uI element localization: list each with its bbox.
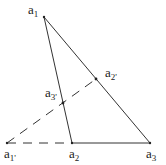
triangle-diagram: a1 a2' a3' a1' a2 a3 <box>0 0 166 165</box>
point-a1p <box>6 142 8 144</box>
label-a2: a2 <box>69 146 79 163</box>
label-a1p: a1' <box>4 146 16 163</box>
point-a2 <box>71 142 73 144</box>
point-a3p <box>62 102 65 105</box>
edge-a1-a2 <box>44 17 72 143</box>
point-a3 <box>149 142 151 144</box>
label-a2p: a2' <box>105 65 117 82</box>
solid-edges <box>44 17 150 143</box>
edge-a1-a3 <box>44 17 150 143</box>
vertex-dots <box>6 16 151 144</box>
label-a3p: a3' <box>45 85 57 102</box>
dashed-edges <box>7 79 96 143</box>
point-a2p <box>95 78 98 81</box>
edge-a1p-a2p <box>7 79 96 143</box>
point-a1 <box>43 16 45 18</box>
label-a1: a1 <box>28 2 38 19</box>
label-a3: a3 <box>146 146 157 163</box>
